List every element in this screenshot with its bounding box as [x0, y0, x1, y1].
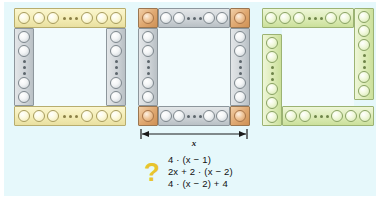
peg — [339, 12, 351, 24]
peg — [142, 31, 154, 43]
figure-b-corner-top-right — [230, 8, 250, 28]
figure-b-corner-bottom-right — [230, 106, 250, 126]
peg — [358, 25, 370, 37]
peg — [18, 77, 30, 89]
peg — [110, 12, 122, 24]
figure-a-right-strip — [106, 28, 126, 106]
peg — [142, 45, 154, 57]
peg — [96, 12, 108, 24]
figure-a-left-strip — [14, 28, 34, 106]
ellipsis-icon — [186, 115, 202, 118]
expressions-block: ? 4 · (x − 1) 2x + 2 · (x − 2) 4 · (x − … — [144, 154, 233, 189]
ellipsis-icon — [307, 17, 323, 20]
peg — [345, 110, 357, 122]
peg — [266, 51, 278, 63]
peg — [33, 110, 45, 122]
ellipsis-icon — [115, 59, 118, 75]
figure-c-top-strip — [262, 8, 354, 28]
peg — [173, 12, 185, 24]
peg — [110, 77, 122, 89]
peg — [266, 83, 278, 95]
ellipsis-icon — [239, 59, 242, 75]
ellipsis-icon — [23, 59, 26, 75]
ellipsis-icon — [313, 115, 329, 118]
dimension-label: x — [138, 138, 250, 148]
figure-a-yellow-gray-frame — [14, 8, 126, 126]
peg — [293, 12, 305, 24]
dimension-arrow-x: x — [138, 128, 250, 152]
figure-b-interior — [158, 28, 230, 106]
peg — [299, 110, 311, 122]
peg — [81, 110, 93, 122]
ellipsis-icon — [186, 17, 202, 20]
peg — [110, 91, 122, 103]
peg — [234, 77, 246, 89]
peg — [234, 12, 246, 24]
peg — [234, 45, 246, 57]
peg — [203, 12, 215, 24]
figure-a-top-strip — [14, 8, 126, 28]
peg — [18, 110, 30, 122]
figure-b-orange-corner-frame — [138, 8, 250, 126]
peg — [142, 91, 154, 103]
peg — [18, 45, 30, 57]
peg — [358, 71, 370, 83]
peg — [266, 111, 278, 123]
figure-c-green-pinwheel-frame — [262, 8, 374, 126]
expression-option-3[interactable]: 4 · (x − 2) + 4 — [168, 178, 233, 189]
figure-c-interior — [282, 28, 354, 106]
figure-b-top-strip — [158, 8, 230, 28]
peg — [110, 31, 122, 43]
peg — [18, 91, 30, 103]
peg — [18, 12, 30, 24]
peg — [110, 45, 122, 57]
peg — [266, 97, 278, 109]
figure-b-right-strip — [230, 28, 250, 106]
peg — [358, 39, 370, 51]
expression-option-1[interactable]: 4 · (x − 1) — [168, 154, 233, 165]
peg — [142, 12, 154, 24]
figure-b-corner-top-left — [138, 8, 158, 28]
peg — [285, 110, 297, 122]
peg — [216, 12, 228, 24]
ellipsis-icon — [62, 115, 78, 118]
peg — [325, 12, 337, 24]
peg — [358, 85, 370, 97]
peg — [47, 12, 59, 24]
ellipsis-icon — [363, 53, 366, 69]
figure-a-interior — [34, 28, 106, 106]
peg — [358, 11, 370, 23]
peg — [331, 110, 343, 122]
peg — [81, 12, 93, 24]
peg — [18, 31, 30, 43]
peg — [142, 77, 154, 89]
peg — [234, 91, 246, 103]
peg — [33, 12, 45, 24]
expression-list: 4 · (x − 1) 2x + 2 · (x − 2) 4 · (x − 2)… — [168, 154, 233, 189]
figure-c-left-strip — [262, 34, 282, 126]
peg — [203, 110, 215, 122]
peg — [96, 110, 108, 122]
ellipsis-icon — [271, 65, 274, 81]
peg — [266, 37, 278, 49]
peg — [110, 110, 122, 122]
figure-a-bottom-strip — [14, 106, 126, 126]
figure-b-left-strip — [138, 28, 158, 106]
peg — [142, 110, 154, 122]
ellipsis-icon — [62, 17, 78, 20]
figure-b-corner-bottom-left — [138, 106, 158, 126]
peg — [160, 110, 172, 122]
peg — [160, 12, 172, 24]
expression-option-2[interactable]: 2x + 2 · (x − 2) — [168, 166, 233, 177]
figure-c-bottom-strip — [282, 106, 374, 126]
peg — [216, 110, 228, 122]
figure-b-bottom-strip — [158, 106, 230, 126]
peg — [173, 110, 185, 122]
peg — [279, 12, 291, 24]
figure-c-right-strip — [354, 8, 374, 100]
question-mark-icon: ? — [144, 159, 160, 185]
peg — [47, 110, 59, 122]
peg — [265, 12, 277, 24]
peg — [234, 110, 246, 122]
ellipsis-icon — [147, 59, 150, 75]
